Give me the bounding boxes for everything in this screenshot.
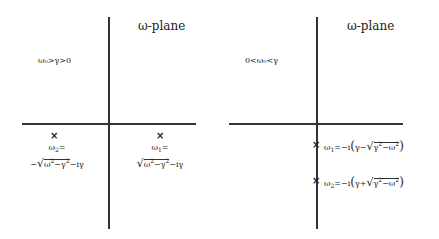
right-plane-title: ω-plane xyxy=(347,19,394,33)
pole-omega1-label: ω1=−i(γ−√γ2−ω2) xyxy=(324,138,404,155)
pole-marker-icon: × xyxy=(312,140,320,150)
left-plane-title: ω-plane xyxy=(138,19,185,33)
pole-omega2-label: ω2=−i(γ+√γ2−ω2) xyxy=(324,174,404,191)
left-real-axis xyxy=(22,123,196,125)
left-condition-label: ω₀>γ>0 xyxy=(38,56,71,65)
pole-marker-icon: × xyxy=(50,131,58,141)
pole-marker-icon: × xyxy=(312,176,320,186)
right-condition-label: 0<ω₀<γ xyxy=(245,56,278,65)
pole-marker-icon: × xyxy=(156,131,164,141)
pole-omega1-label: ω1= √ω2−γ2−iγ xyxy=(125,142,195,170)
pole-omega2-label: ω2= −√ω2−γ2−iγ xyxy=(22,142,92,170)
right-real-axis xyxy=(229,123,403,125)
